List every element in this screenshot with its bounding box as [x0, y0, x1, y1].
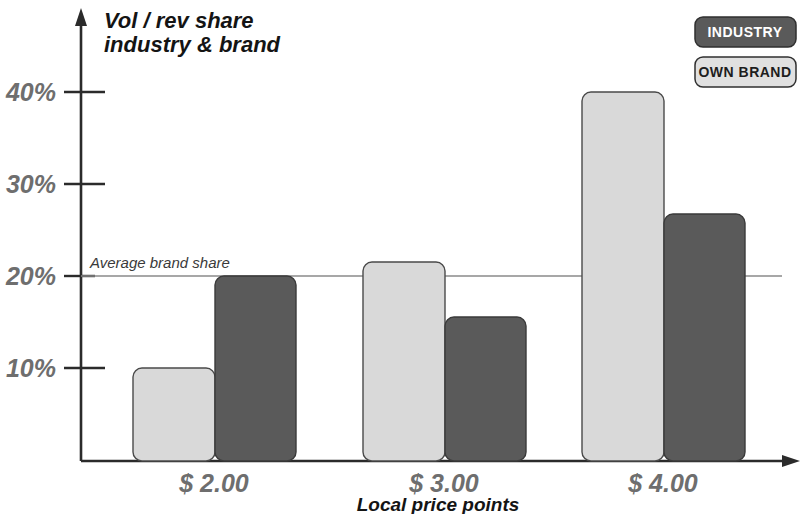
y-tick-label-40: 40% [5, 78, 56, 106]
y-tick-labels: 40% 30% 20% 10% [5, 78, 56, 382]
y-tick-label-30: 30% [6, 170, 56, 198]
bar-chart: 40% 30% 20% 10% Average brand share [0, 0, 808, 514]
chart-title: Vol / rev share industry & brand [104, 8, 281, 57]
chart-title-line-1: Vol / rev share [104, 8, 254, 33]
bar-group-3 [582, 92, 745, 461]
legend: INDUSTRY OWN BRAND [695, 17, 796, 87]
bar-group-2 [363, 262, 526, 461]
legend-label-own-brand: OWN BRAND [698, 64, 791, 80]
bar-own-brand-2-00 [215, 276, 296, 461]
y-tick-marks [64, 92, 105, 368]
bar-group-1 [133, 276, 296, 461]
legend-label-industry: INDUSTRY [707, 24, 782, 40]
x-tick-labels: $ 2.00 $ 3.00 $ 4.00 [178, 469, 698, 497]
legend-item-industry[interactable]: INDUSTRY [695, 17, 796, 47]
chart-canvas: 40% 30% 20% 10% Average brand share [0, 0, 808, 514]
x-tick-label-2: $ 3.00 [408, 469, 479, 497]
bar-own-brand-4-00 [664, 214, 745, 461]
y-axis-arrowhead [75, 8, 87, 26]
y-tick-label-10: 10% [6, 354, 56, 382]
x-axis-title: Local price points [357, 494, 520, 514]
x-axis-arrowhead [782, 455, 800, 467]
reference-line-label: Average brand share [89, 254, 230, 271]
bar-industry-3-00 [363, 262, 445, 461]
legend-item-own-brand[interactable]: OWN BRAND [695, 57, 796, 87]
bar-industry-2-00 [133, 368, 215, 461]
y-tick-label-20: 20% [5, 262, 56, 290]
bar-industry-4-00 [582, 92, 664, 461]
x-tick-label-3: $ 4.00 [627, 469, 698, 497]
bar-own-brand-3-00 [445, 317, 526, 461]
x-tick-label-1: $ 2.00 [178, 469, 249, 497]
chart-title-line-2: industry & brand [104, 32, 281, 57]
